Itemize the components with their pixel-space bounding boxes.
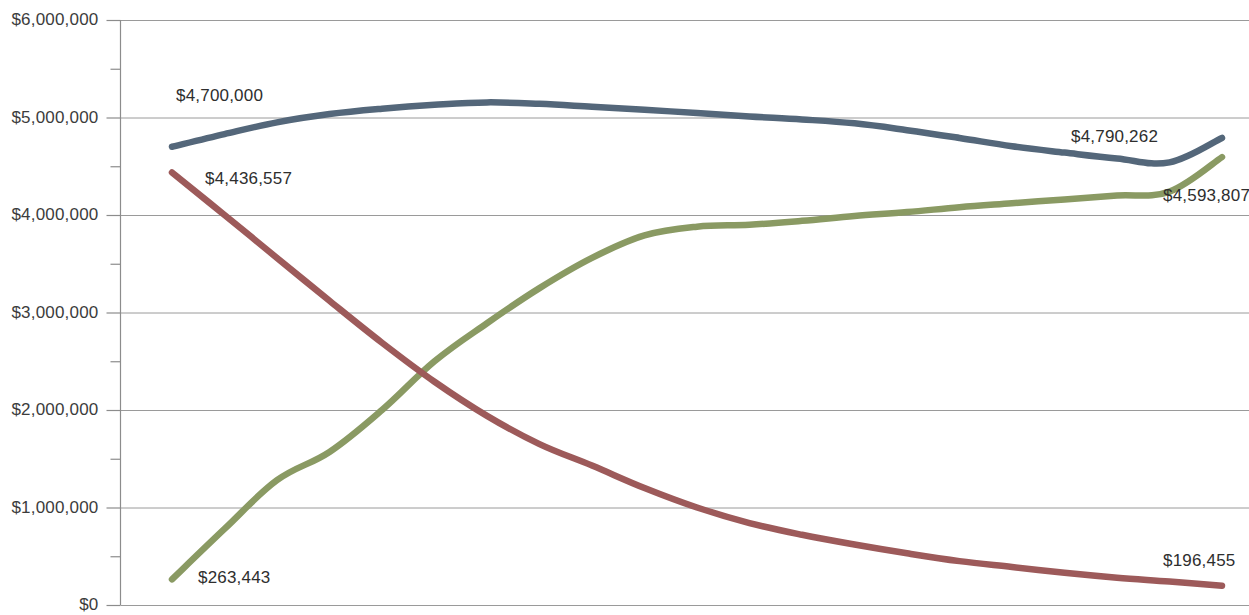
label-series-2-start: $263,443	[198, 568, 271, 588]
y-axis-tick-label: $1,000,000	[11, 498, 98, 518]
label-series-1-start: $4,700,000	[176, 86, 263, 106]
label-series-1-end: $4,790,262	[1071, 127, 1158, 147]
y-axis-tick-label: $6,000,000	[11, 10, 98, 30]
series-line-2	[172, 157, 1222, 579]
axis-minor-ticks	[107, 21, 121, 606]
y-axis-tick-label: $3,000,000	[11, 303, 98, 323]
series-lines	[172, 102, 1222, 585]
y-axis-tick-label: $2,000,000	[11, 400, 98, 420]
y-axis-tick-label: $0	[79, 595, 98, 615]
label-series-3-end: $196,455	[1163, 551, 1236, 571]
series-line-1	[172, 102, 1222, 163]
gridlines	[121, 21, 1249, 606]
label-series-3-start: $4,436,557	[205, 169, 292, 189]
series-line-3	[172, 172, 1222, 585]
y-axis-tick-label: $4,000,000	[11, 205, 98, 225]
y-axis-tick-label: $5,000,000	[11, 108, 98, 128]
line-chart: $6,000,000$5,000,000$4,000,000$3,000,000…	[0, 0, 1249, 615]
label-series-2-end: $4,593,807	[1163, 186, 1249, 206]
